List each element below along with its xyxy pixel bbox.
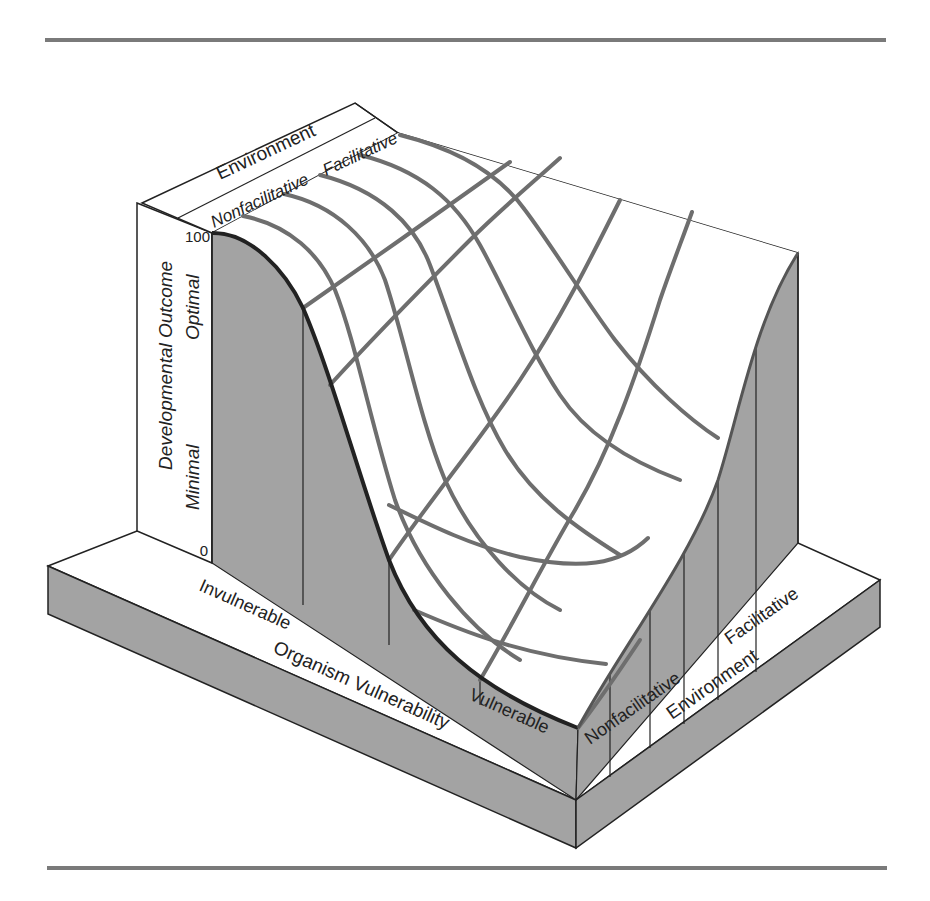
vertical-axis-optimal-label: Optimal (182, 274, 203, 340)
y-tick-100: 100 (185, 228, 210, 245)
vertical-axis-minimal-label: Minimal (182, 444, 203, 510)
bottom-rule (47, 866, 887, 870)
vertical-axis-title: Developmental Outcome (155, 261, 176, 470)
top-rule (45, 38, 886, 42)
y-tick-0: 0 (200, 542, 208, 559)
developmental-outcome-surface-figure: 100 0 Developmental Outcome Optimal Mini… (0, 0, 930, 901)
